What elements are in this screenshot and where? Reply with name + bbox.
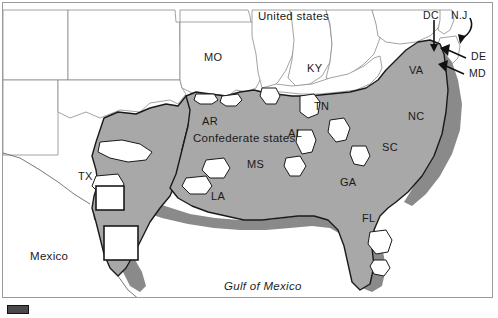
state-label-ky: KY [307, 62, 322, 74]
label-confederate-states: Confederate states [193, 132, 296, 144]
state-label-mo: MO [204, 51, 222, 63]
callout-label-dc: DC [423, 9, 439, 21]
map-figure: United states Confederate states Mexico … [0, 0, 498, 318]
callout-label-nj: N.J [451, 9, 468, 21]
state-label-sc: SC [382, 141, 398, 153]
label-gulf-of-mexico: Gulf of Mexico [224, 280, 302, 292]
state-label-nc: NC [408, 110, 425, 122]
callout-label-md: MD [469, 67, 486, 79]
state-label-la: LA [211, 190, 225, 202]
label-united-states: United states [258, 10, 329, 22]
state-label-ms: MS [247, 158, 264, 170]
state-label-ar: AR [202, 115, 218, 127]
state-label-tn: TN [314, 100, 329, 112]
state-label-al: AL [288, 127, 302, 139]
state-label-fl: FL [362, 212, 375, 224]
label-mexico: Mexico [30, 250, 68, 262]
state-label-tx: TX [78, 170, 93, 182]
state-label-va: VA [409, 64, 423, 76]
legend-swatch [7, 305, 29, 314]
state-label-ga: GA [340, 176, 357, 188]
callout-label-de: DE [471, 50, 486, 62]
